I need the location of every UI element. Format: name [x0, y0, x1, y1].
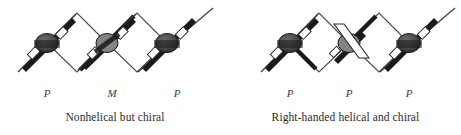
molecular-diagram-left [0, 0, 230, 88]
stereocenter-node-3-left [138, 8, 213, 72]
descriptor-right-2: P [334, 86, 364, 100]
caption-left: Nonhelical but chiral [0, 110, 230, 124]
descriptor-left-2: M [97, 86, 127, 100]
diagram-panel-left: P M P Nonhelical but chiral [0, 0, 230, 135]
descriptor-right-3: P [394, 86, 424, 100]
descriptor-right-1: P [275, 86, 305, 100]
caption-right: Right-handed helical and chiral [230, 110, 461, 124]
stereochemistry-figure: P M P Nonhelical but chiral [0, 0, 461, 135]
molecular-diagram-right [230, 0, 461, 88]
diagram-panel-right: P P P Right-handed helical and chiral [230, 0, 461, 135]
descriptor-row-left: P M P [0, 86, 230, 104]
descriptor-left-1: P [32, 86, 62, 100]
stereocenter-node-3-right [380, 8, 455, 72]
descriptor-row-right: P P P [230, 86, 461, 104]
descriptor-left-3: P [162, 86, 192, 100]
